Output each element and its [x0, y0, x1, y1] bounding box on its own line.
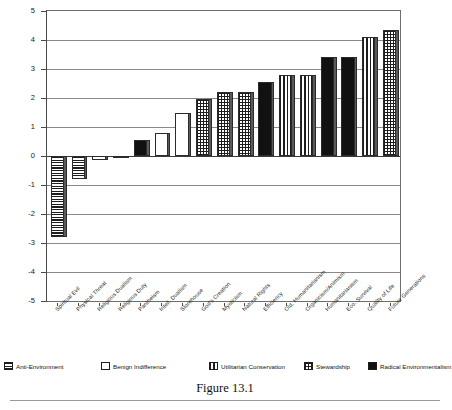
bar-side-7 — [189, 113, 192, 157]
y-tick — [41, 301, 47, 302]
legend-swatch-5 — [368, 362, 377, 370]
bar-14 — [321, 57, 334, 156]
bar-side-14 — [334, 57, 337, 156]
bar-side-15 — [355, 57, 358, 156]
legend-item-4[interactable]: Stewardship — [304, 362, 350, 370]
bar-side-13 — [313, 75, 316, 156]
legend-label-4: Stewardship — [316, 363, 350, 370]
y-tick-label: 2 — [0, 94, 35, 102]
bar-11 — [258, 82, 271, 156]
bar-side-9 — [230, 92, 233, 156]
bar-10 — [238, 92, 251, 156]
bar-9 — [217, 92, 230, 156]
bar-7 — [175, 113, 188, 157]
bar-1 — [51, 156, 64, 237]
legend-swatch-1 — [4, 362, 13, 370]
bar-side-3 — [106, 156, 109, 160]
legend-label-3: Utilitarian Conservation — [221, 363, 285, 370]
legend-label-2: Benign Indifference — [113, 363, 166, 370]
legend-swatch-2 — [101, 362, 110, 370]
legend-swatch-3 — [209, 362, 218, 370]
y-tick-label: -4 — [0, 268, 35, 276]
bar-12 — [279, 75, 292, 156]
figure-caption: Figure 13.1 — [0, 381, 450, 396]
bar-16 — [362, 37, 375, 156]
bar-17 — [383, 30, 396, 156]
chart-legend: Anti-EnvironmentBenign IndifferenceUtili… — [4, 360, 446, 376]
bar-2 — [72, 156, 85, 179]
y-tick-label: -2 — [0, 210, 35, 218]
bar-side-16 — [375, 37, 378, 156]
y-tick-label: -1 — [0, 181, 35, 189]
bar-side-5 — [147, 140, 150, 156]
caption-rule — [10, 400, 440, 401]
bar-side-6 — [168, 133, 171, 156]
legend-item-1[interactable]: Anti-Environment — [4, 362, 63, 370]
x-axis-labels: Spiritual EvilPhysical ThreatReligious D… — [0, 303, 450, 361]
bar-side-10 — [251, 92, 254, 156]
y-tick-label: 5 — [0, 7, 35, 15]
bar-series — [47, 11, 400, 301]
bar-side-12 — [292, 75, 295, 156]
legend-item-2[interactable]: Benign Indifference — [101, 362, 166, 370]
bar-side-1 — [64, 156, 67, 237]
y-tick-label: 1 — [0, 123, 35, 131]
bar-5 — [134, 140, 147, 156]
bar-6 — [155, 133, 168, 156]
bar-15 — [341, 57, 354, 156]
bar-side-8 — [209, 99, 212, 156]
bar-3 — [92, 156, 105, 160]
bar-8 — [196, 99, 209, 156]
y-tick-label: 0 — [0, 152, 35, 160]
y-tick-label: 3 — [0, 65, 35, 73]
bar-4 — [113, 156, 126, 158]
y-tick-label: 4 — [0, 36, 35, 44]
bar-side-2 — [85, 156, 88, 179]
legend-label-1: Anti-Environment — [16, 363, 63, 370]
bar-side-11 — [272, 82, 275, 156]
bar-13 — [300, 75, 313, 156]
bar-side-4 — [126, 156, 129, 158]
y-tick-label: -3 — [0, 239, 35, 247]
legend-swatch-4 — [304, 362, 313, 370]
legend-item-5[interactable]: Radical Environmentalism — [368, 362, 452, 370]
bar-side-17 — [396, 30, 399, 156]
legend-item-3[interactable]: Utilitarian Conservation — [209, 362, 285, 370]
legend-label-5: Radical Environmentalism — [380, 363, 452, 370]
